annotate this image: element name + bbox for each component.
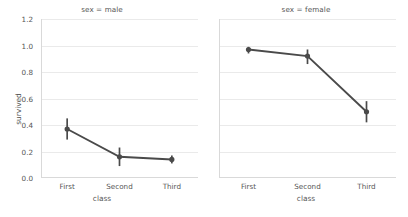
x-axis-label-male: class	[0, 194, 204, 203]
data-point	[364, 109, 369, 114]
data-point	[117, 154, 122, 159]
x-tick-label: Third	[142, 182, 202, 191]
x-tick-label: Third	[337, 182, 397, 191]
x-axis-label-female: class	[204, 194, 408, 203]
x-tick-label: First	[219, 182, 279, 191]
data-point	[246, 47, 251, 52]
series-male	[41, 19, 198, 178]
facet-title-female: sex = female	[204, 5, 408, 14]
data-point	[65, 126, 70, 131]
plot-area-male	[41, 19, 198, 178]
x-tick-label: Second	[90, 182, 150, 191]
facet-panel-female: sex = female FirstSecondThird class	[204, 0, 408, 217]
series-female	[219, 19, 396, 178]
data-point	[169, 157, 174, 162]
facet-panel-male: sex = male FirstSecondThird class	[0, 0, 204, 217]
plot-area-female	[219, 19, 396, 178]
x-tick-label: First	[37, 182, 97, 191]
facet-title-male: sex = male	[0, 5, 204, 14]
pointplot-figure: survived 0.00.20.40.60.81.01.2 sex = mal…	[0, 0, 408, 217]
x-tick-label: Second	[278, 182, 338, 191]
data-point	[305, 54, 310, 59]
